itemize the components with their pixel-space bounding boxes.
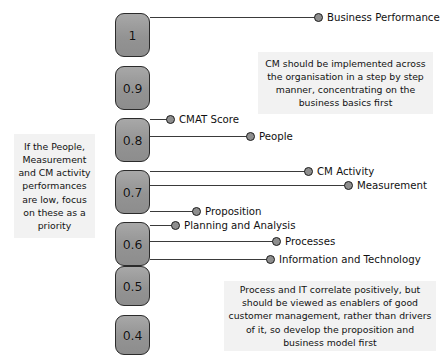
- data-point-marker[interactable]: [246, 132, 255, 141]
- scale-tick-label: 1: [129, 28, 137, 43]
- data-point-marker[interactable]: [192, 207, 201, 216]
- connector-line: [150, 171, 308, 172]
- scale-tick-1: 1: [115, 13, 150, 57]
- connector-line: [150, 259, 270, 260]
- scale-tick-label: 0.4: [123, 328, 142, 343]
- note-top-text: CM should be implemented across the orga…: [262, 57, 429, 110]
- data-point-label: Information and Technology: [279, 254, 421, 265]
- connector-line: [150, 136, 250, 137]
- scale-tick-0-5: 0.5: [115, 266, 150, 306]
- data-point-marker[interactable]: [314, 13, 323, 22]
- note-step-by-step: CM should be implemented across the orga…: [258, 52, 433, 114]
- data-point-label: CMAT Score: [179, 114, 239, 125]
- data-point-label: Processes: [285, 236, 335, 247]
- data-point-label: Proposition: [205, 206, 262, 217]
- data-point-label: Measurement: [357, 180, 427, 191]
- connector-line: [150, 185, 348, 186]
- connector-line: [150, 17, 318, 18]
- scale-tick-0-7: 0.7: [115, 170, 150, 214]
- data-point-label: Business Performance: [327, 12, 440, 23]
- connector-line: [150, 241, 276, 242]
- scale-tick-label: 0.9: [123, 81, 142, 96]
- data-point-label: CM Activity: [317, 166, 374, 177]
- data-point-marker[interactable]: [344, 181, 353, 190]
- scale-tick-0-8: 0.8: [115, 118, 150, 162]
- note-left-text: If the People, Measurement and CM activi…: [18, 140, 91, 232]
- diagram-canvas: 10.90.80.70.60.50.4 Business Performance…: [0, 0, 440, 362]
- data-point-marker[interactable]: [171, 221, 180, 230]
- data-point-marker[interactable]: [266, 255, 275, 264]
- scale-tick-label: 0.7: [123, 185, 142, 200]
- data-point-marker[interactable]: [304, 167, 313, 176]
- scale-tick-0-6: 0.6: [115, 222, 150, 266]
- data-point-marker[interactable]: [272, 237, 281, 246]
- data-point-label: People: [259, 131, 293, 142]
- scale-tick-0-4: 0.4: [115, 315, 150, 355]
- note-people-measurement: If the People, Measurement and CM activi…: [14, 134, 95, 238]
- scale-tick-0-9: 0.9: [115, 66, 150, 110]
- connector-line: [150, 211, 196, 212]
- scale-tick-label: 0.6: [123, 237, 142, 252]
- scale-tick-label: 0.8: [123, 133, 142, 148]
- scale-tick-label: 0.5: [123, 279, 142, 294]
- note-process-it: Process and IT correlate positively, but…: [224, 281, 436, 351]
- data-point-label: Planning and Analysis: [184, 220, 296, 231]
- note-bottom-text: Process and IT correlate positively, but…: [228, 283, 432, 349]
- data-point-marker[interactable]: [166, 115, 175, 124]
